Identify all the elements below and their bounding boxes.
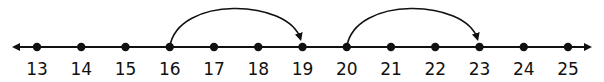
tick-dot bbox=[33, 43, 41, 51]
tick-label: 21 bbox=[380, 59, 402, 79]
tick-dot bbox=[475, 43, 483, 51]
tick-label: 22 bbox=[424, 59, 446, 79]
tick-label: 24 bbox=[513, 59, 535, 79]
tick-dot bbox=[254, 43, 262, 51]
tick-dot bbox=[166, 43, 174, 51]
tick-label: 15 bbox=[115, 59, 137, 79]
jump-arcs bbox=[170, 8, 478, 47]
tick-label: 18 bbox=[247, 59, 269, 79]
tick-dot bbox=[77, 43, 85, 51]
tick-label: 25 bbox=[557, 59, 579, 79]
tick-dot bbox=[210, 43, 218, 51]
number-line-svg: 13141516171819202122232425 bbox=[0, 0, 604, 82]
tick-dot bbox=[298, 43, 306, 51]
tick-dot bbox=[121, 43, 129, 51]
tick-dot bbox=[564, 43, 572, 51]
tick-label: 20 bbox=[336, 59, 358, 79]
tick-dot bbox=[431, 43, 439, 51]
tick-label: 23 bbox=[469, 59, 491, 79]
tick-dot bbox=[520, 43, 528, 51]
tick-label: 14 bbox=[70, 59, 92, 79]
tick-labels: 13141516171819202122232425 bbox=[26, 59, 579, 79]
tick-dot bbox=[387, 43, 395, 51]
number-line-diagram: 13141516171819202122232425 bbox=[0, 0, 604, 82]
jump-arc-16-to-19 bbox=[170, 8, 301, 47]
jump-arc-20-to-23 bbox=[347, 8, 478, 47]
tick-label: 13 bbox=[26, 59, 48, 79]
tick-label: 16 bbox=[159, 59, 181, 79]
tick-label: 19 bbox=[292, 59, 314, 79]
tick-label: 17 bbox=[203, 59, 225, 79]
tick-dot bbox=[343, 43, 351, 51]
